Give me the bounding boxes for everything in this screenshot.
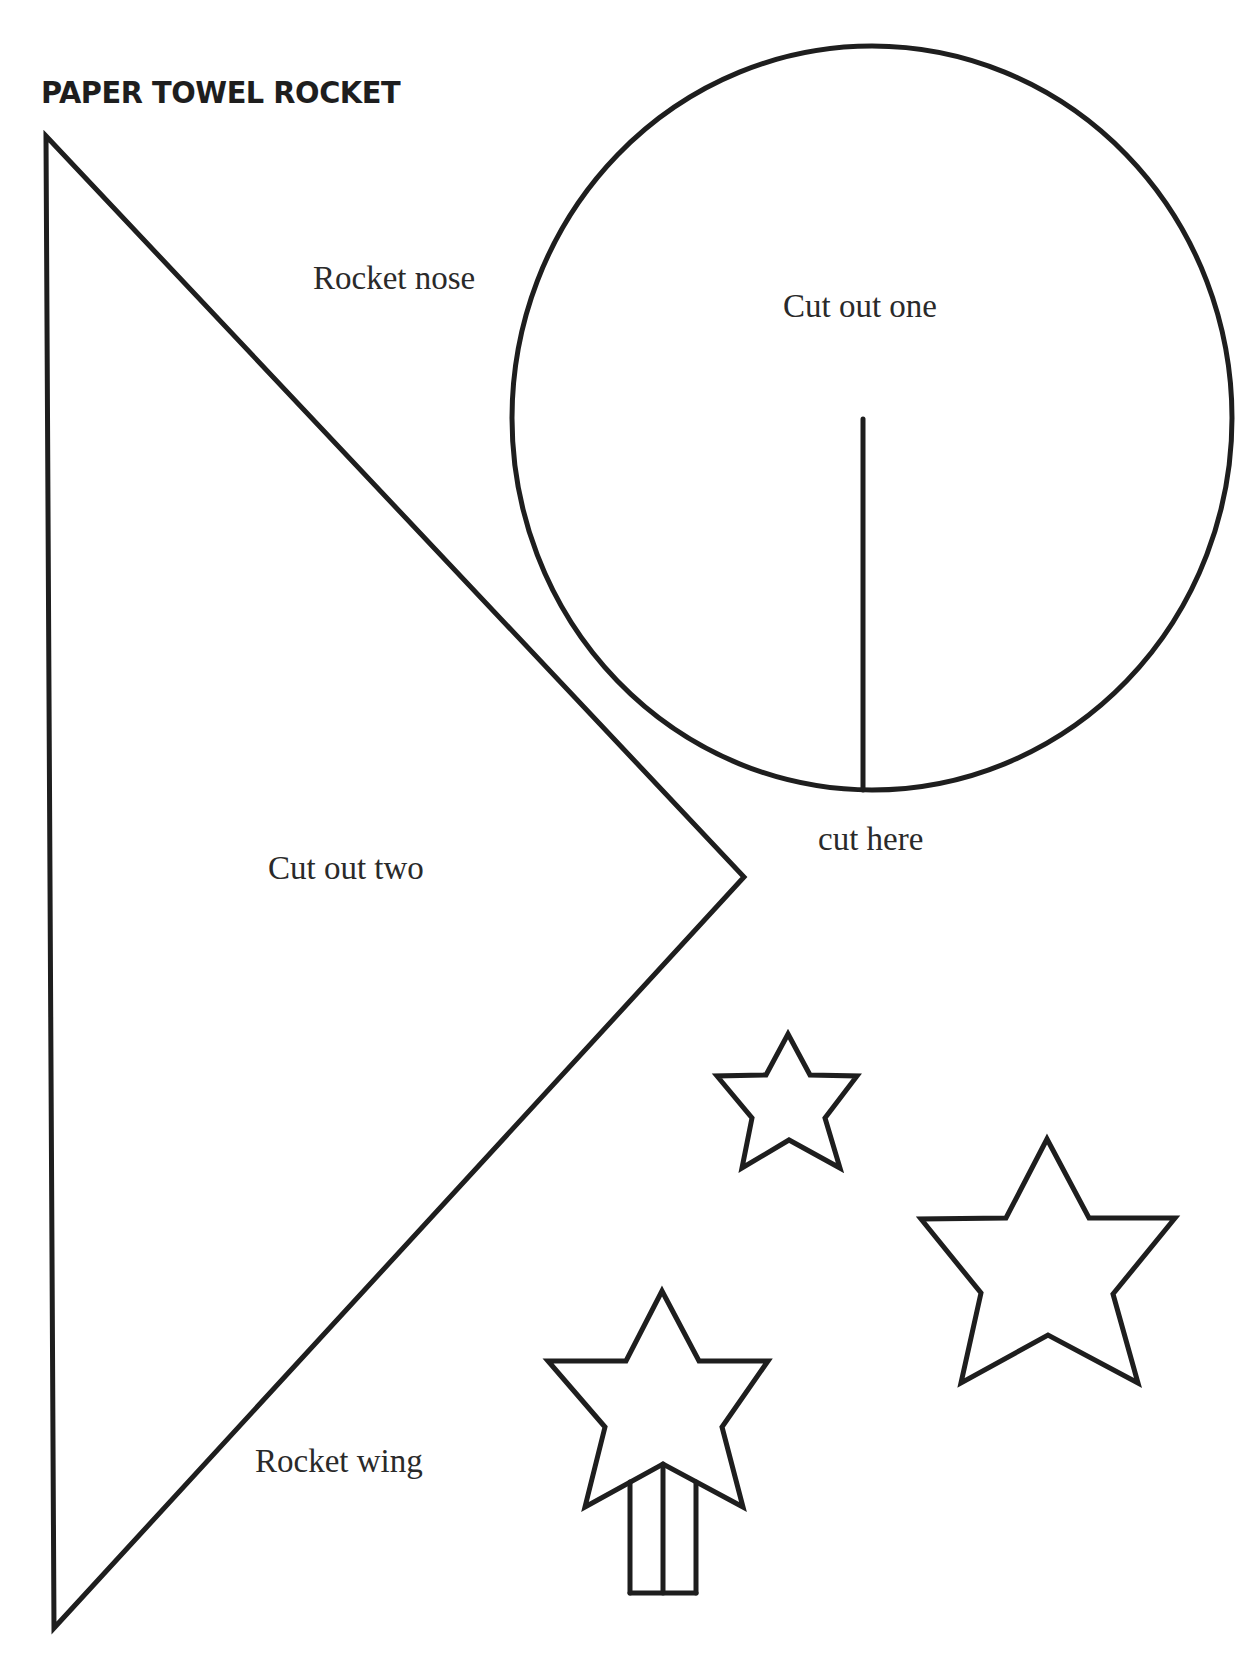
rocket-nose-label: Rocket nose [313, 262, 475, 295]
cutout-shapes [0, 0, 1259, 1669]
nose-instruction-label: Cut out one [783, 290, 937, 323]
rocket-nose-circle [512, 46, 1232, 790]
printable-worksheet: PAPER TOWEL ROCKET Rocket nose Cut out o… [0, 0, 1259, 1669]
rocket-wing-label: Rocket wing [255, 1445, 423, 1478]
wand-stick [630, 1464, 696, 1593]
small-star-icon [717, 1034, 857, 1168]
cut-here-label: cut here [818, 823, 923, 856]
wand-star-icon [548, 1291, 768, 1507]
large-star-icon [921, 1139, 1175, 1383]
page-title: PAPER TOWEL ROCKET [41, 74, 400, 110]
wing-instruction-label: Cut out two [268, 852, 424, 885]
